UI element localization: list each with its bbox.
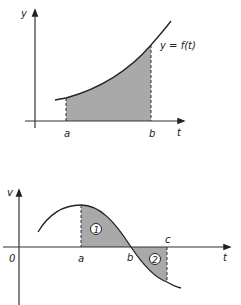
- top-a-label: a: [64, 128, 70, 139]
- region-1-area: [81, 205, 131, 247]
- top-x-label: t: [177, 127, 182, 138]
- diagram-canvas: y t y = f(t) a b 1 2 v t 0 a b c: [0, 0, 241, 305]
- top-b-label: b: [149, 128, 155, 139]
- region-1-label: 1: [94, 225, 100, 235]
- top-y-label: y: [20, 8, 28, 19]
- top-graph: y t y = f(t) a b: [20, 8, 196, 139]
- bottom-graph: 1 2 v t 0 a b c: [3, 187, 230, 305]
- bottom-b-label: b: [127, 252, 133, 263]
- region-2-label: 2: [152, 255, 158, 265]
- bottom-y-label: v: [7, 187, 14, 198]
- top-shaded-area: [66, 45, 151, 121]
- function-label: y = f(t): [159, 40, 196, 51]
- bottom-a-label: a: [78, 253, 84, 264]
- bottom-x-label: t: [223, 252, 228, 263]
- region-2-area: [131, 247, 167, 282]
- bottom-c-label: c: [165, 234, 171, 245]
- origin-label: 0: [9, 253, 15, 264]
